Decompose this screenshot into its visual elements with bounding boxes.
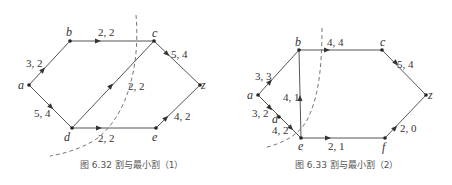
node-label-c: c bbox=[380, 35, 386, 49]
node-label-z: z bbox=[427, 88, 433, 102]
node-label-c: c bbox=[152, 26, 158, 40]
edge-label: 2, 2 bbox=[98, 132, 115, 144]
node-label-a: a bbox=[18, 78, 24, 92]
node-label-e: e bbox=[298, 139, 304, 153]
edge-label: 3, 2 bbox=[252, 107, 269, 119]
edge-label: 4, 2 bbox=[272, 124, 289, 136]
figure-6-32: a b c z d e 3, 2 2, 2 5, 4 5, 4 2, 2 2, … bbox=[18, 15, 206, 170]
figure-caption: 图 6.32 割与最小割（1） bbox=[80, 159, 184, 170]
edge-label: 5, 4 bbox=[34, 107, 51, 119]
edge-label: 4, 1 bbox=[283, 91, 300, 103]
edge-label: 2, 2 bbox=[128, 80, 145, 92]
node-label-b: b bbox=[295, 35, 301, 49]
edge-label: 2, 2 bbox=[98, 26, 115, 38]
node-label-d: d bbox=[64, 130, 71, 144]
edge-label: 3, 3 bbox=[255, 70, 272, 82]
node-label-z: z bbox=[200, 78, 206, 92]
edge-label: 4, 4 bbox=[327, 36, 344, 48]
node-label-b: b bbox=[66, 25, 72, 39]
edge-label: 2, 0 bbox=[400, 122, 417, 134]
figure-6-33: a b c z d e f 3, 3 4, 4 5, 4 4, 1 3, 2 4… bbox=[247, 28, 433, 170]
node-label-a: a bbox=[247, 88, 253, 102]
edge-label: 5, 4 bbox=[171, 48, 188, 60]
edge-c-z bbox=[382, 50, 426, 95]
figure-caption: 图 6.33 割与最小割（2） bbox=[295, 159, 399, 170]
edge-label: 2, 1 bbox=[328, 140, 345, 152]
figures-canvas: a b c z d e 3, 2 2, 2 5, 4 5, 4 2, 2 2, … bbox=[0, 0, 452, 185]
edge-label: 4, 2 bbox=[174, 110, 191, 122]
node-label-f: f bbox=[382, 140, 387, 154]
edge-label: 3, 2 bbox=[26, 57, 43, 69]
node-label-e: e bbox=[152, 130, 158, 144]
edge-label: 5, 4 bbox=[397, 58, 414, 70]
